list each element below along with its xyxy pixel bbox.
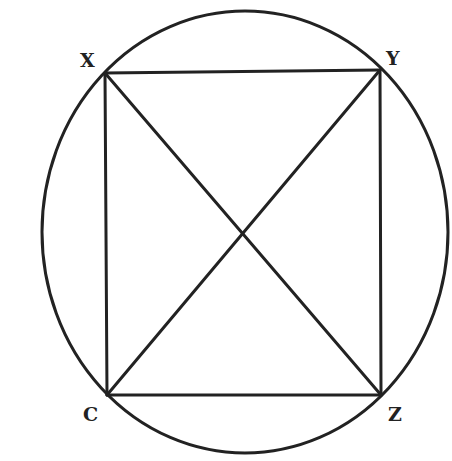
vertex-label-y: Y	[385, 47, 400, 69]
vertex-label-x: X	[80, 49, 95, 71]
vertex-label-z: Z	[388, 403, 402, 425]
geometry-diagram: X Y C Z	[0, 0, 452, 461]
vertex-label-c: C	[83, 403, 98, 425]
side-cx	[105, 73, 107, 395]
side-xy	[105, 70, 380, 73]
side-yz	[380, 70, 381, 395]
